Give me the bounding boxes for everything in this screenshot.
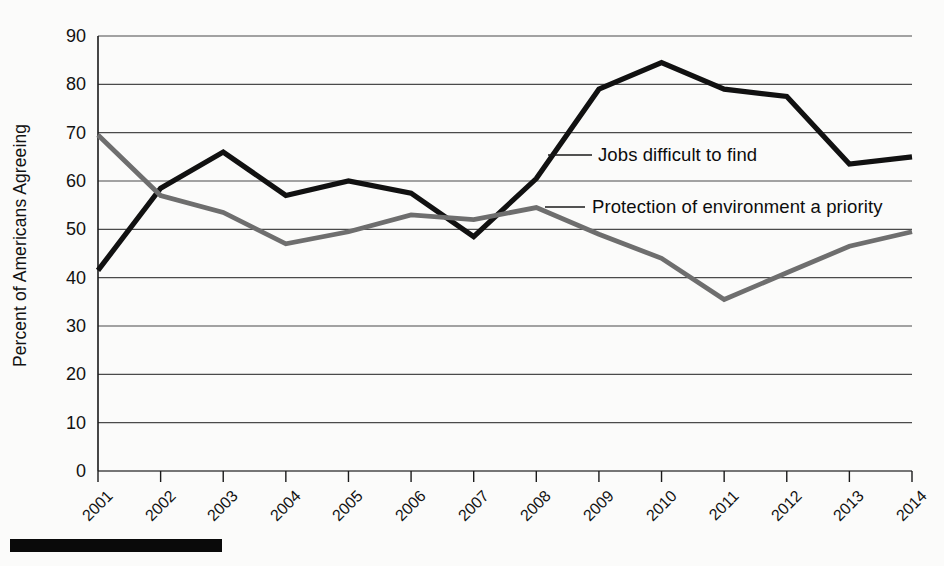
y-axis-tick-label: 70	[34, 122, 86, 143]
y-axis-tick-label: 60	[34, 171, 86, 192]
series-label-environment: Protection of environment a priority	[592, 196, 883, 218]
y-axis-tick-label: 40	[34, 267, 86, 288]
bottom-rule-bar	[10, 539, 222, 552]
y-axis-tick-label: 50	[34, 219, 86, 240]
series-label-jobs: Jobs difficult to find	[598, 144, 757, 166]
y-axis-tick-label: 20	[34, 364, 86, 385]
y-axis-tick-label: 0	[34, 461, 86, 482]
y-axis-title-text: Percent of Americans Agreeing	[11, 123, 32, 366]
chart-figure: Percent of Americans Agreeing 9080706050…	[0, 0, 944, 566]
y-axis-title: Percent of Americans Agreeing	[6, 0, 36, 490]
y-axis-tick-label: 30	[34, 316, 86, 337]
plot-area	[0, 0, 944, 566]
y-axis-tick-label: 10	[34, 412, 86, 433]
series-line-jobs	[98, 63, 912, 271]
y-axis-tick-label: 90	[34, 26, 86, 47]
y-axis-tick-label: 80	[34, 74, 86, 95]
